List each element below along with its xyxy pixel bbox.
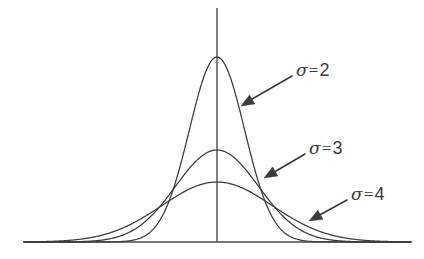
annotation-label-sigma-4: σ=4 (351, 185, 385, 203)
annotation-label-sigma-3: σ=3 (309, 139, 343, 157)
sigma-symbol: σ (351, 184, 363, 204)
arrow-head-sigma-3 (264, 167, 278, 178)
leader-line-sigma-4 (316, 200, 347, 217)
equals-sign: = (321, 139, 333, 158)
sigma-value: 3 (333, 138, 343, 158)
sigma-value: 4 (375, 184, 385, 204)
leader-line-sigma-3 (271, 154, 305, 174)
arrow-head-sigma-4 (309, 210, 323, 221)
sigma-symbol: σ (309, 138, 321, 158)
annotation-label-sigma-2: σ=2 (296, 61, 330, 79)
plot-canvas (0, 0, 424, 259)
equals-sign: = (363, 185, 375, 204)
sigma-value: 2 (320, 60, 330, 80)
leader-line-sigma-2 (247, 76, 292, 102)
equals-sign: = (308, 61, 320, 80)
arrow-head-sigma-2 (241, 95, 255, 106)
gaussian-figure: σ=2 σ=3 σ=4 (0, 0, 424, 259)
sigma-symbol: σ (296, 60, 308, 80)
